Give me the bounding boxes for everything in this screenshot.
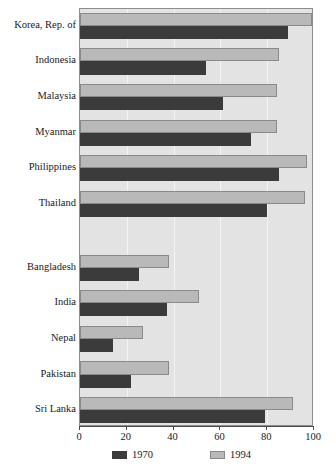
bar-1994 xyxy=(80,13,312,26)
plot-area xyxy=(79,8,313,426)
bar-1994 xyxy=(80,361,169,374)
category-label: Nepal xyxy=(0,332,76,343)
category-label: Thailand xyxy=(0,197,76,208)
category-label: Indonesia xyxy=(0,54,76,65)
bar-1994 xyxy=(80,326,143,339)
x-tick xyxy=(313,426,314,430)
x-tick-label: 100 xyxy=(298,431,328,443)
bar-chart: Korea, Rep. ofIndonesiaMalaysiaMyanmarPh… xyxy=(0,0,335,469)
category-label: India xyxy=(0,296,76,307)
bar-1970 xyxy=(80,375,131,388)
bar-1970 xyxy=(80,133,251,146)
x-tick xyxy=(219,426,220,430)
x-tick-label: 80 xyxy=(251,431,281,443)
bar-1970 xyxy=(80,268,139,281)
category-axis-labels: Korea, Rep. ofIndonesiaMalaysiaMyanmarPh… xyxy=(0,0,76,469)
x-axis-line xyxy=(79,426,313,427)
bar-1994 xyxy=(80,191,305,204)
bar-1994 xyxy=(80,290,199,303)
bar-1994 xyxy=(80,84,277,97)
bar-1994 xyxy=(80,155,307,168)
bar-1970 xyxy=(80,97,223,110)
bar-1994 xyxy=(80,397,293,410)
legend-label: 1970 xyxy=(132,449,153,461)
category-label: Pakistan xyxy=(0,368,76,379)
bar-1970 xyxy=(80,204,267,217)
category-label: Philippines xyxy=(0,161,76,172)
bar-1970 xyxy=(80,61,206,74)
x-tick xyxy=(126,426,127,430)
category-label: Malaysia xyxy=(0,90,76,101)
bar-1994 xyxy=(80,120,277,133)
legend-swatch-icon xyxy=(112,451,127,459)
legend-swatch-icon xyxy=(210,451,225,459)
legend-label: 1994 xyxy=(230,449,251,461)
category-label: Korea, Rep. of xyxy=(0,19,76,30)
category-label: Myanmar xyxy=(0,126,76,137)
bar-1994 xyxy=(80,255,169,268)
x-tick xyxy=(266,426,267,430)
legend-entry-1994: 1994 xyxy=(210,449,251,461)
x-tick-label: 60 xyxy=(204,431,234,443)
bar-1994 xyxy=(80,48,279,61)
category-label: Bangladesh xyxy=(0,261,76,272)
x-tick-label: 20 xyxy=(111,431,141,443)
bar-1970 xyxy=(80,168,279,181)
bar-1970 xyxy=(80,410,265,423)
x-tick xyxy=(173,426,174,430)
x-tick xyxy=(79,426,80,430)
bar-1970 xyxy=(80,339,113,352)
bar-1970 xyxy=(80,303,167,316)
category-label: Sri Lanka xyxy=(0,403,76,414)
gridline xyxy=(267,9,268,425)
chart-legend: 19701994 xyxy=(0,449,335,465)
bar-1970 xyxy=(80,26,288,39)
legend-entry-1970: 1970 xyxy=(112,449,153,461)
x-tick-label: 0 xyxy=(64,431,94,443)
x-tick-label: 40 xyxy=(158,431,188,443)
